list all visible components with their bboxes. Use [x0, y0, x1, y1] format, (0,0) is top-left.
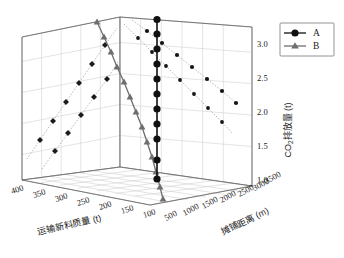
y-tick-6: 3500 — [263, 169, 283, 186]
legend-box — [280, 23, 334, 56]
legend-label-b: B — [313, 41, 319, 51]
z-axis-title: CO2排放量 (t) — [282, 102, 294, 157]
z-tick-3: 2.5 — [257, 73, 268, 83]
x-tick-0: 400 — [9, 182, 24, 195]
x-tick-6: 100 — [141, 206, 156, 219]
z-tick-2: 2.0 — [257, 107, 268, 117]
legend-marker-circle-icon — [291, 29, 298, 36]
right-wall-pane — [120, 17, 252, 186]
x-tick-4: 200 — [97, 198, 112, 211]
x-axis-title: 运输新料质量 (t) — [36, 212, 102, 237]
legend-label-a: A — [313, 28, 320, 38]
y-tick-0: 500 — [163, 208, 179, 223]
chart-figure: 3.0 2.5 2.0 1.5 1.0 CO2排放量 (t) 400 350 3… — [0, 0, 344, 258]
z-title-rest: 排放量 (t) — [282, 102, 293, 140]
chart-3d-canvas: 3.0 2.5 2.0 1.5 1.0 CO2排放量 (t) 400 350 3… — [0, 0, 344, 258]
svg-text:CO2排放量 (t): CO2排放量 (t) — [282, 102, 294, 157]
z-tick-1: 1.5 — [257, 141, 268, 151]
z-title-main: CO — [283, 144, 293, 158]
x-tick-3: 250 — [75, 194, 90, 207]
x-tick-1: 350 — [31, 186, 46, 199]
y-axis-title: 摊铺距离 (m) — [219, 205, 271, 238]
legend[interactable]: A B — [280, 23, 334, 56]
left-wall-pane — [22, 17, 120, 180]
y-tick-1: 1000 — [181, 201, 201, 218]
z-axis-ticks: 3.0 2.5 2.0 1.5 1.0 — [257, 39, 268, 185]
x-tick-2: 300 — [53, 190, 68, 203]
z-tick-4: 3.0 — [257, 39, 268, 49]
x-tick-5: 150 — [119, 202, 134, 215]
